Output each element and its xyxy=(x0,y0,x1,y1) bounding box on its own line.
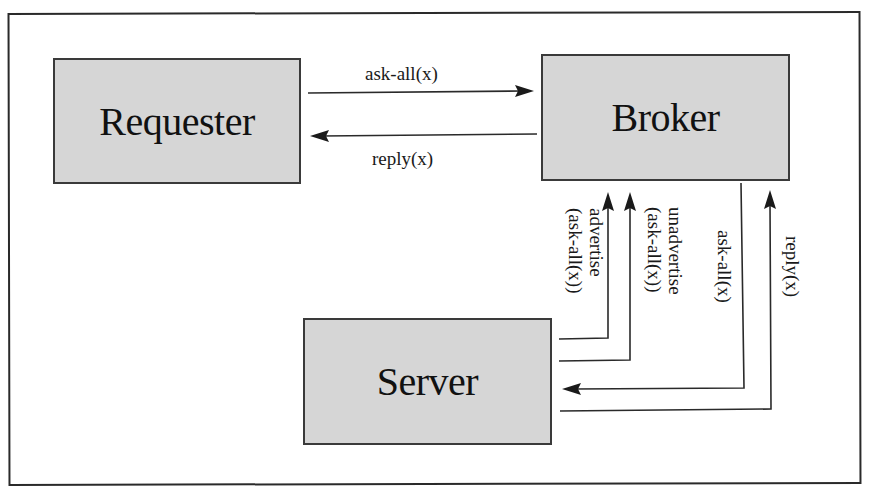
label-reply-server: reply(x) xyxy=(783,236,802,297)
label-advertise-line1: advertise xyxy=(585,208,606,293)
label-unadvertise: unadvertise (ask-all(x)) xyxy=(644,207,685,295)
label-reply-requester: reply(x) xyxy=(372,149,433,168)
server-label: Server xyxy=(377,358,478,405)
requester-label: Requester xyxy=(99,98,254,145)
label-ask-all-server: ask-all(x) xyxy=(715,230,734,303)
server-node: Server xyxy=(303,318,552,445)
label-unadvertise-line1: unadvertise xyxy=(664,207,685,295)
broker-label: Broker xyxy=(611,94,719,141)
label-unadvertise-line2: (ask-all(x)) xyxy=(644,207,665,295)
label-ask-all-request: ask-all(x) xyxy=(365,64,438,83)
label-advertise: advertise (ask-all(x)) xyxy=(565,208,606,293)
broker-node: Broker xyxy=(541,54,790,181)
label-advertise-line2: (ask-all(x)) xyxy=(565,208,586,293)
requester-node: Requester xyxy=(53,58,301,184)
